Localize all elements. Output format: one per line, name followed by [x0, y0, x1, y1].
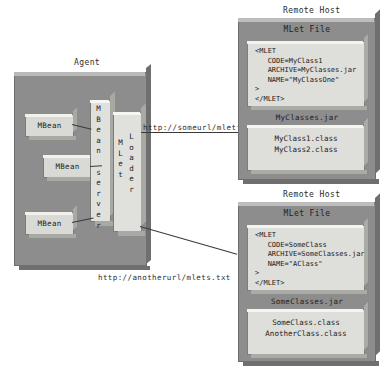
host-2-mlet-panel-bevel-right: [364, 218, 368, 286]
host-2-class-panel-bevel-top: [247, 309, 363, 312]
remote-host-2-caption: Remote Host: [283, 190, 340, 199]
host-2-class-panel[interactable]: SomeClass.class AnotherClass.class: [247, 309, 365, 355]
host-2-jar-label: SomeClasses.jar: [239, 297, 375, 306]
mbean-1-bevel-top: [25, 114, 72, 117]
host-1-class-panel[interactable]: MyClass1.class MyClass2.class: [247, 125, 365, 171]
mbean-3-bevel-bottom: [29, 234, 76, 238]
host-1-mlet-panel-bevel-bottom: [251, 106, 367, 110]
mlet-loader-bevel-bottom: [118, 231, 145, 236]
mbean-box-2[interactable]: MBean: [43, 155, 92, 178]
host-1-bevel-bottom: [243, 179, 379, 184]
mbean-1-bevel-right: [73, 107, 77, 132]
host-1-bevel-top: [238, 18, 374, 22]
host-2-class-panel-bevel-bottom: [251, 354, 367, 358]
mbean-1-label: MBean: [37, 121, 61, 130]
host-2-mlet-file-title: MLet File: [239, 209, 375, 218]
mlet-loader-bevel-right: [141, 103, 146, 226]
mlet-loader-label-top: MLet: [116, 138, 125, 180]
host-1-class-panel-bevel-bottom: [251, 170, 367, 174]
agent-bottom-bevel: [19, 266, 150, 270]
host-1-mlet-file-panel[interactable]: <MLET CODE=MyClass1 ARCHIVE=MyClasses.ja…: [247, 41, 365, 107]
mbean-server-bevel-top: [90, 100, 109, 103]
mbean-2-bevel-bottom: [47, 177, 94, 181]
remote-host-1-container: MLet File <MLET CODE=MyClass1 ARCHIVE=My…: [238, 18, 376, 180]
host-1-mlet-file-code: <MLET CODE=MyClass1 ARCHIVE=MyClasses.ja…: [248, 42, 364, 104]
connector-loader-to-host1: [141, 132, 239, 133]
host-1-mlet-panel-bevel-top: [247, 41, 363, 44]
mbean-box-1[interactable]: MBean: [25, 114, 74, 137]
agent-caption: Agent: [74, 58, 100, 67]
mbean-2-bevel-top: [43, 155, 90, 158]
mlet-loader-label-bottom: Loader: [127, 132, 136, 196]
host-1-mlet-panel-bevel-right: [364, 34, 368, 102]
connector-loader-to-host2: [140, 226, 237, 255]
diagram-canvas: Agent MBean MBean MBean MBean server MLe…: [0, 0, 391, 367]
mbean-box-3[interactable]: MBean: [25, 212, 74, 235]
mbean-server-label: MBean server: [94, 104, 103, 231]
url-label-mlets-txt: http://anotherurl/mlets.txt: [98, 273, 231, 282]
host-2-bevel-top: [238, 202, 374, 206]
agent-top-bevel: [14, 72, 145, 76]
host-1-class-panel-bevel-top: [247, 125, 363, 128]
remote-host-2-container: MLet File <MLET CODE=SomeClass ARCHIVE=S…: [238, 202, 376, 362]
host-2-mlet-panel-bevel-bottom: [251, 290, 367, 294]
mbean-3-label: MBean: [37, 219, 61, 228]
host-1-jar-label: MyClasses.jar: [239, 113, 375, 122]
host-2-mlet-file-panel[interactable]: <MLET CODE=SomeClass ARCHIVE=SomeClasses…: [247, 225, 365, 291]
remote-host-1-caption: Remote Host: [283, 6, 340, 15]
host-1-class-list: MyClass1.class MyClass2.class: [248, 126, 364, 155]
host-1-class-panel-bevel-right: [364, 118, 368, 166]
host-1-mlet-file-title: MLet File: [239, 25, 375, 34]
mbean-3-bevel-top: [25, 212, 72, 215]
host-2-mlet-file-code: <MLET CODE=SomeClass ARCHIVE=SomeClasses…: [248, 226, 364, 288]
mbean-3-bevel-right: [73, 205, 77, 230]
mbean-1-bevel-bottom: [29, 136, 76, 140]
host-2-class-list: SomeClass.class AnotherClass.class: [248, 310, 364, 339]
host-2-bevel-right: [375, 193, 380, 356]
host-2-bevel-bottom: [243, 361, 379, 366]
host-2-class-panel-bevel-right: [364, 302, 368, 350]
host-2-mlet-panel-bevel-top: [247, 225, 363, 228]
host-1-bevel-right: [375, 9, 380, 174]
mlet-loader-bevel-top: [113, 112, 140, 115]
agent-right-bevel: [146, 64, 151, 264]
mbean-2-label: MBean: [55, 162, 79, 171]
